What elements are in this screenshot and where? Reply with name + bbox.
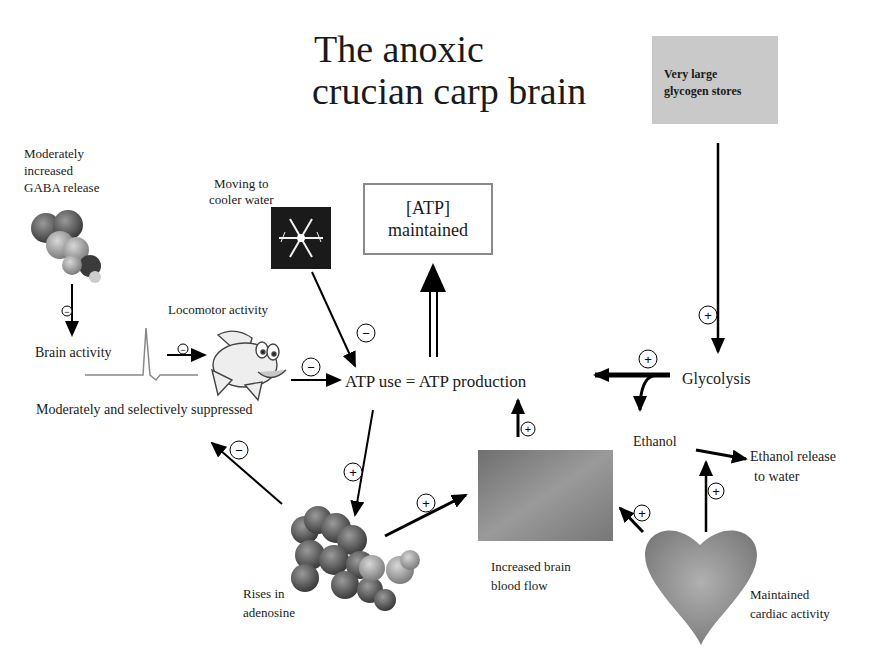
svg-text:+: + xyxy=(712,484,720,499)
svg-text:−: − xyxy=(362,326,370,341)
snowflake-icon xyxy=(271,207,331,269)
gaba-molecule-icon xyxy=(31,210,101,283)
svg-text:−: − xyxy=(64,307,69,317)
svg-text:+: + xyxy=(704,308,712,323)
atp-up-arrowhead xyxy=(420,263,446,292)
svg-text:+: + xyxy=(349,465,357,480)
svg-text:−: − xyxy=(307,360,315,375)
arrows xyxy=(72,143,746,536)
adenosine-molecule-icon xyxy=(291,506,420,611)
svg-text:+: + xyxy=(644,352,652,367)
svg-text:−: − xyxy=(180,345,185,355)
diagram-graphics: − − − − + + + − + + + + xyxy=(0,0,876,670)
svg-text:+: + xyxy=(638,506,646,521)
blood-flow-image xyxy=(478,450,613,541)
heart-icon xyxy=(645,531,757,645)
sign-markers: − − − − + + + − + + + + xyxy=(62,306,724,521)
cartoon-fish-icon xyxy=(212,331,286,400)
svg-text:+: + xyxy=(525,423,531,435)
svg-text:−: − xyxy=(235,443,243,458)
svg-text:+: + xyxy=(422,496,430,511)
